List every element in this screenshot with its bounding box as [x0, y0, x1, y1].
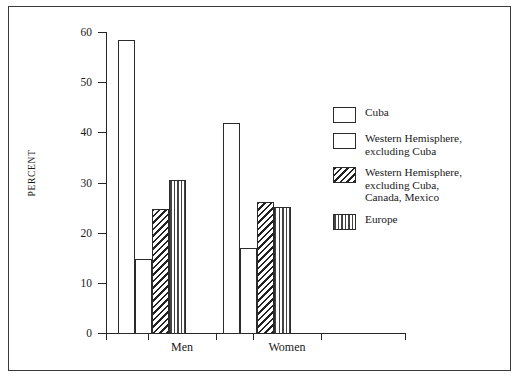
x-tick-left-edge — [106, 333, 107, 340]
x-tick-men-end — [216, 333, 217, 340]
bar-women-series-1 — [240, 248, 257, 334]
legend-label-2: Western Hemisphere, excluding Cuba, Cana… — [365, 166, 462, 204]
x-tick-women-end — [321, 333, 322, 340]
bar-men-series-2 — [152, 209, 169, 334]
y-tick-label-20: 20 — [52, 227, 92, 239]
legend-swatch-icon-dots — [333, 133, 356, 149]
y-tick-label-0: 0 — [52, 327, 92, 339]
y-tick-label-10: 10 — [52, 277, 92, 289]
legend-label-3: Europe — [365, 213, 398, 226]
category-label-women: Women — [247, 340, 327, 355]
bar-men-series-0 — [118, 40, 135, 334]
y-tick-label-30: 30 — [52, 177, 92, 189]
legend-swatch-icon-plain — [333, 107, 356, 123]
x-tick-women-start — [253, 333, 254, 340]
y-axis-ticks: 60 50 40 30 20 10 0 — [0, 0, 108, 380]
bar-men-series-3 — [169, 180, 186, 334]
legend-item-0[interactable]: Cuba — [333, 106, 508, 123]
y-tick-label-60: 60 — [52, 26, 92, 38]
bar-men-series-1 — [135, 259, 152, 335]
legend-item-1[interactable]: Western Hemisphere, excluding Cuba — [333, 132, 508, 157]
bar-women-series-3 — [274, 207, 291, 334]
bar-chart-figure: PERCENT 60 50 40 30 20 10 0 Men Women Cu… — [0, 0, 520, 380]
y-tick-label-40: 40 — [52, 126, 92, 138]
legend-label-1: Western Hemisphere, excluding Cuba — [365, 132, 462, 157]
chart-legend: CubaWestern Hemisphere, excluding CubaWe… — [333, 106, 508, 239]
legend-item-2[interactable]: Western Hemisphere, excluding Cuba, Cana… — [333, 166, 508, 204]
x-tick-men-start — [148, 333, 149, 340]
x-tick-right-edge — [405, 333, 406, 340]
bar-women-series-2 — [257, 202, 274, 334]
legend-item-3[interactable]: Europe — [333, 213, 508, 230]
legend-swatch-icon-hatch — [333, 167, 356, 183]
legend-swatch-icon-vlines — [333, 214, 356, 230]
category-label-men: Men — [142, 340, 222, 355]
bar-women-series-0 — [223, 123, 240, 334]
legend-label-0: Cuba — [365, 106, 389, 119]
y-tick-label-50: 50 — [52, 76, 92, 88]
